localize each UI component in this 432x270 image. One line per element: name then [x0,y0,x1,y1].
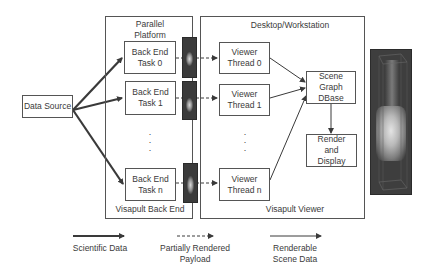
backend-task-n-box: Back End Task n [125,168,176,201]
scene-graph-dbase-label: Scene Graph DBase [318,71,344,104]
legend-partially-rendered-payload: Partially Rendered Payload [155,243,235,265]
bounding-box-wireframe-icon [371,50,412,195]
backend-task-1-label: Back End Task 1 [132,87,168,109]
partial-render-thumbnail-0 [182,37,197,78]
data-source-box: Data Source [22,95,73,118]
render-display-label: Render and Display [318,134,346,167]
partial-render-thumbnail-n [183,163,198,203]
volume-render-image [370,49,412,195]
parallel-platform-title: Parallel Platform [115,19,185,41]
visapult-viewer-label: Visapult Viewer [255,204,335,215]
viewer-thread-0-box: Viewer Thread 0 [219,42,270,74]
partial-render-thumbnail-1 [182,81,197,120]
data-source-label: Data Source [24,101,71,112]
viewer-thread-1-box: Viewer Thread 1 [219,84,270,116]
legend-renderable-scene-data: Renderable Scene Data [255,243,335,265]
viewer-thread-1-label: Viewer Thread 1 [227,89,261,111]
scene-graph-dbase-box: Scene Graph DBase [306,71,356,104]
backend-task-0-label: Back End Task 0 [132,47,168,69]
render-display-box: Render and Display [306,134,357,167]
viewer-thread-0-label: Viewer Thread 0 [227,47,261,69]
backend-task-1-box: Back End Task 1 [125,81,176,115]
viewer-thread-n-box: Viewer Thread n [219,168,270,201]
viewer-ellipsis: . . . [240,128,250,152]
viewer-thread-n-label: Viewer Thread n [227,174,261,196]
backend-ellipsis: . . . [145,128,155,152]
desktop-workstation-title: Desktop/Workstation [240,20,340,31]
legend-scientific-data: Scientific Data [60,243,140,254]
backend-task-n-label: Back End Task n [132,174,168,196]
visapult-backend-label: Visapult Back End [110,204,190,215]
backend-task-0-box: Back End Task 0 [124,41,176,74]
